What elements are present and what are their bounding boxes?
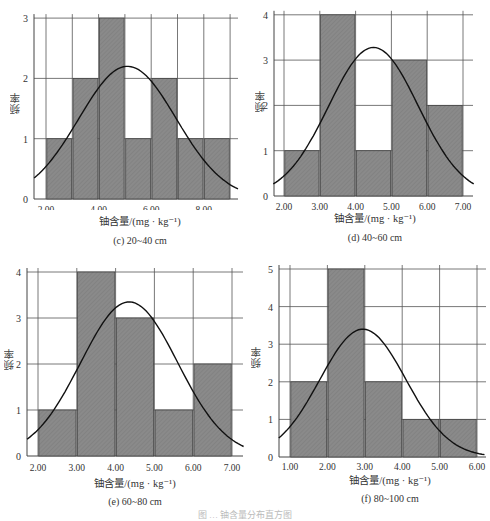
svg-text:4.00: 4.00 [394, 462, 411, 472]
histogram-bar [392, 60, 426, 196]
svg-text:3: 3 [16, 313, 21, 324]
svg-text:5: 5 [268, 264, 273, 275]
svg-text:6.00: 6.00 [143, 205, 160, 210]
histogram-bar [178, 139, 203, 199]
chart-panel-e: 012342.003.004.005.006.007.00 频率 铀含量/(mg… [0, 250, 245, 508]
histogram-bar [73, 78, 98, 199]
svg-text:4: 4 [263, 10, 268, 21]
figure-caption: 图 … 铀含量分布直方图 [0, 508, 490, 521]
histogram-bar [366, 382, 402, 457]
svg-text:5.00: 5.00 [383, 202, 400, 210]
svg-text:2.00: 2.00 [38, 205, 55, 210]
svg-text:4.00: 4.00 [90, 205, 107, 210]
svg-text:0: 0 [268, 452, 273, 463]
histogram-e: 012342.003.004.005.006.007.00 [0, 250, 245, 475]
svg-text:3.00: 3.00 [311, 202, 328, 210]
svg-text:7.00: 7.00 [224, 463, 241, 473]
svg-text:6.00: 6.00 [419, 202, 436, 210]
svg-text:1.00: 1.00 [282, 462, 299, 472]
svg-text:2: 2 [268, 377, 273, 388]
y-axis-label: 频率 [2, 348, 17, 370]
histogram-bar [328, 269, 364, 457]
histogram-f: 0123451.002.003.004.005.006.00 [245, 250, 490, 475]
histogram-bar [99, 18, 124, 199]
svg-text:4: 4 [16, 267, 21, 278]
svg-text:1: 1 [263, 146, 268, 157]
subplot-caption: (e) 60~80 cm [75, 496, 195, 507]
svg-text:0: 0 [263, 191, 268, 202]
x-axis-label: 铀含量/(mg · kg⁻¹) [70, 213, 210, 228]
histogram-bar [39, 410, 76, 456]
svg-text:5.00: 5.00 [431, 462, 448, 472]
svg-text:2.00: 2.00 [30, 463, 47, 473]
svg-text:0: 0 [23, 194, 28, 205]
histogram-bar [205, 139, 230, 199]
svg-text:2.00: 2.00 [319, 462, 336, 472]
histogram-bar [403, 419, 439, 457]
histogram-bar [285, 151, 319, 196]
histogram-bar [152, 78, 177, 199]
histogram-bar [47, 139, 72, 199]
histogram-bar [321, 15, 355, 196]
histogram-bar [428, 105, 462, 196]
x-axis-label: 铀含量/(mg · kg⁻¹) [305, 210, 445, 225]
chart-panel-d: 012342.003.004.005.006.007.00 频率 铀含量/(mg… [245, 0, 490, 250]
svg-text:3: 3 [263, 55, 268, 66]
subplot-caption: (f) 80~100 cm [330, 493, 450, 504]
x-axis-label: 铀含量/(mg · kg⁻¹) [320, 472, 460, 487]
histogram-bar [116, 318, 153, 456]
x-axis-label: 铀含量/(mg · kg⁻¹) [65, 475, 205, 490]
subplot-caption: (d) 40~60 cm [315, 232, 435, 243]
histogram-bar [155, 410, 192, 456]
svg-text:1: 1 [268, 414, 273, 425]
histogram-bar [126, 139, 151, 199]
svg-text:4.00: 4.00 [107, 463, 124, 473]
chart-panel-f: 0123451.002.003.004.005.006.00 频率 铀含量/(m… [245, 250, 490, 508]
histogram-bar [356, 151, 390, 196]
histogram-bar [78, 272, 115, 456]
y-axis-label: 频率 [8, 92, 23, 114]
histogram-d: 012342.003.004.005.006.007.00 [245, 0, 490, 210]
svg-text:4: 4 [268, 302, 273, 313]
svg-text:4.00: 4.00 [347, 202, 364, 210]
subplot-caption: (c) 20~40 cm [80, 235, 200, 246]
svg-text:3.00: 3.00 [68, 463, 85, 473]
histogram-bar [194, 364, 231, 456]
svg-text:7.00: 7.00 [455, 202, 472, 210]
y-axis-label: 频率 [253, 90, 268, 112]
svg-text:3: 3 [23, 13, 28, 24]
svg-text:2.00: 2.00 [276, 202, 293, 210]
svg-text:3: 3 [268, 339, 273, 350]
svg-text:2: 2 [23, 73, 28, 84]
svg-text:3.00: 3.00 [356, 462, 373, 472]
svg-text:6.00: 6.00 [469, 462, 486, 472]
svg-text:6.00: 6.00 [185, 463, 202, 473]
svg-text:0: 0 [16, 451, 21, 462]
y-axis-label: 频率 [249, 346, 264, 368]
svg-text:1: 1 [23, 134, 28, 145]
svg-text:8.00: 8.00 [195, 205, 212, 210]
svg-text:1: 1 [16, 405, 21, 416]
histogram-c: 01232.004.006.008.00 [0, 0, 245, 210]
chart-panel-c: 01232.004.006.008.00 频率 铀含量/(mg · kg⁻¹) … [0, 0, 245, 250]
svg-text:5.00: 5.00 [146, 463, 163, 473]
